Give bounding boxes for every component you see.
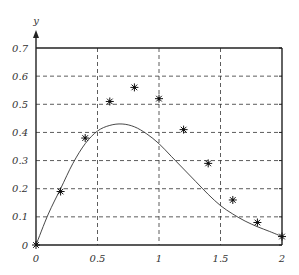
data-point xyxy=(106,97,114,105)
x-tick-label: 1 xyxy=(156,253,162,264)
y-tick-label: 0.4 xyxy=(12,127,28,138)
y-tick-label: 0.2 xyxy=(12,183,28,194)
y-axis-arrow-icon xyxy=(33,30,39,38)
y-tick-label: 0.3 xyxy=(12,155,28,166)
plot-frame xyxy=(33,30,282,245)
x-tick-label: 1.5 xyxy=(213,253,229,264)
data-point xyxy=(180,126,188,134)
y-axis-label: y xyxy=(32,15,39,26)
data-point xyxy=(204,159,212,167)
data-point xyxy=(278,233,286,241)
y-tick-label: 0 xyxy=(22,240,29,251)
y-tick-label: 0.6 xyxy=(12,71,29,82)
data-point xyxy=(32,241,40,249)
chart: 00.511.5200.10.20.30.40.50.60.7 y xyxy=(0,0,299,275)
data-point xyxy=(253,218,261,226)
y-tick-label: 0.7 xyxy=(12,43,29,54)
data-point xyxy=(229,196,237,204)
y-tick-label: 0.1 xyxy=(12,211,28,222)
grid xyxy=(36,48,282,245)
y-tick-label: 0.5 xyxy=(12,99,28,110)
data-point xyxy=(81,134,89,142)
data-point xyxy=(130,83,138,91)
tick-labels: 00.511.5200.10.20.30.40.50.60.7 xyxy=(12,43,285,265)
data-point xyxy=(155,95,163,103)
data-point xyxy=(57,188,65,196)
x-tick-label: 0 xyxy=(33,253,40,264)
x-tick-label: 2 xyxy=(278,253,285,264)
x-tick-label: 0.5 xyxy=(90,253,106,264)
